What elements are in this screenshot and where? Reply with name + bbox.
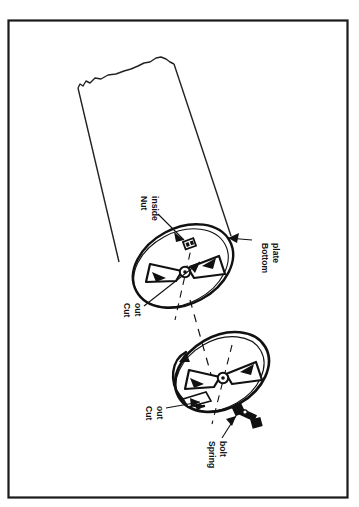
label-bottom-plate-line2: plate — [271, 243, 281, 263]
spring-bolt-nut — [251, 418, 262, 428]
label-cut-out-lower-line1: Cut — [144, 406, 154, 420]
label-cut-out-lower: Cut out — [144, 406, 165, 420]
figure-root: F — [0, 0, 359, 507]
label-spring-bolt-line2: bolt — [218, 441, 228, 457]
label-cut-out-upper: Cut out — [122, 303, 143, 317]
assembly-diagram: Nut inside Bottom plate Cut out Cut out … — [0, 0, 359, 507]
label-nut-inside-line1: Nut — [139, 196, 149, 210]
spring-bolt-pivot — [243, 410, 247, 414]
label-cut-out-upper-line1: Cut — [122, 303, 132, 317]
label-bottom-plate-line1: Bottom — [260, 243, 270, 273]
lower-wing-nut-center-hole — [221, 376, 225, 380]
figure-border — [9, 21, 348, 498]
label-spring-bolt-line1: Spring — [207, 441, 217, 468]
label-cut-out-lower-line2: out — [155, 406, 165, 419]
label-cut-out-upper-line2: out — [133, 303, 143, 316]
label-nut-inside-line2: inside — [150, 196, 160, 221]
